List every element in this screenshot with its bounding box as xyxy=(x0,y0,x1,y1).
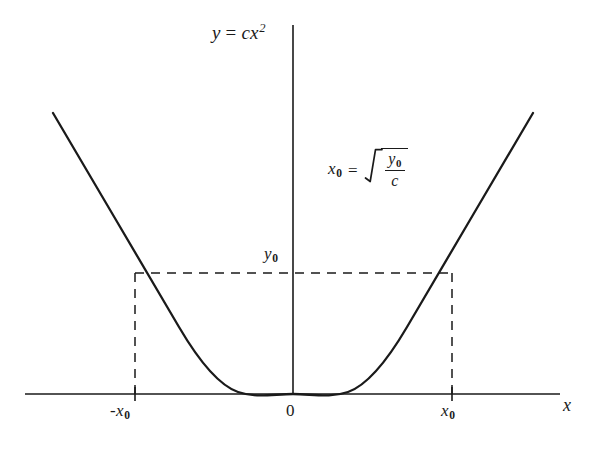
square-root-group: y0 c xyxy=(365,148,408,192)
plot-canvas xyxy=(0,0,590,456)
x-tick-label-x0-var: x xyxy=(441,401,449,420)
curve-equation-label: y = cx2 xyxy=(212,22,266,42)
y-tick-label-y0-var: y xyxy=(264,244,272,263)
x-tick-label-neg-x0-sub: 0 xyxy=(124,409,130,422)
x0-formula: x0 = y0 c xyxy=(328,148,408,192)
curve-equation-exponent: 2 xyxy=(259,21,265,35)
fraction-denominator: c xyxy=(389,172,400,190)
fraction-bar xyxy=(385,170,405,171)
x-tick-label-x0: x0 xyxy=(441,402,455,422)
origin-label: 0 xyxy=(286,402,295,419)
y-tick-label-y0: y0 xyxy=(264,245,278,265)
radicand-fraction: y0 c xyxy=(381,148,408,192)
curve-equation-eq-sign: = xyxy=(226,22,237,43)
x-axis-label: x xyxy=(563,396,571,414)
x0-formula-lhs-sub: 0 xyxy=(336,167,342,180)
x-tick-label-neg-x0: -x0 xyxy=(110,402,130,422)
radical-icon xyxy=(365,148,382,192)
fraction-numerator-var: y xyxy=(388,150,395,167)
curve-equation-y: y xyxy=(212,22,221,43)
fraction-numerator: y0 xyxy=(386,150,403,169)
x0-formula-equals: = xyxy=(348,162,358,179)
parabola-figure: y = cx2 x0 = y0 c y0 -x0 0 x0 x xyxy=(0,0,590,456)
x-tick-label-neg-x0-var: x xyxy=(116,401,124,420)
y-tick-label-y0-sub: 0 xyxy=(272,252,278,265)
x-tick-label-x0-sub: 0 xyxy=(449,409,455,422)
x0-formula-lhs: x0 xyxy=(328,160,342,180)
curve-equation-c: c xyxy=(241,22,250,43)
fraction-numerator-sub: 0 xyxy=(396,157,401,169)
x0-formula-lhs-var: x xyxy=(328,159,336,178)
curve-equation-x: x xyxy=(250,22,259,43)
